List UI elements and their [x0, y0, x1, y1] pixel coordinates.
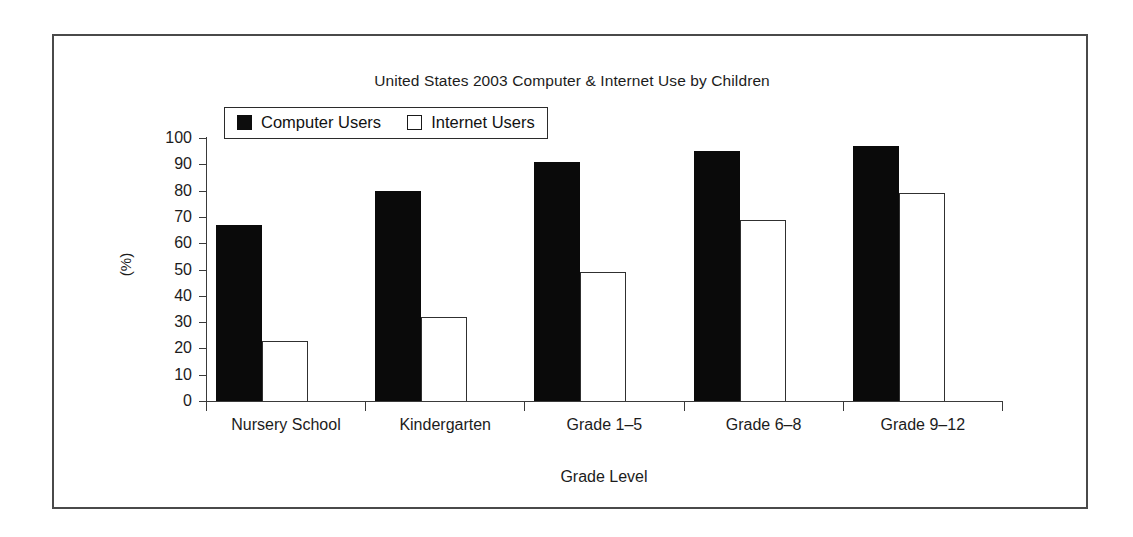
legend-item-computer-users: Computer Users — [237, 113, 381, 132]
x-tick-3 — [684, 401, 685, 411]
bar-computer-users[interactable] — [534, 162, 580, 401]
bar-pair — [694, 138, 786, 401]
chart-title: United States 2003 Computer & Internet U… — [54, 72, 1090, 90]
bar-computer-users[interactable] — [694, 151, 740, 401]
y-tick-label-100: 100 — [165, 129, 192, 147]
bar-internet-users[interactable] — [421, 317, 467, 401]
x-axis-title: Grade Level — [206, 468, 1002, 486]
y-tick-100: 100 — [199, 138, 206, 139]
x-tick-0 — [206, 401, 207, 411]
legend-swatch-hollow-icon — [407, 115, 422, 130]
bar-computer-users[interactable] — [853, 146, 899, 401]
y-tick-label-70: 70 — [174, 208, 192, 226]
y-tick-50: 50 — [199, 270, 206, 271]
y-tick-20: 20 — [199, 348, 206, 349]
bar-computer-users[interactable] — [216, 225, 262, 401]
x-tick-2 — [524, 401, 525, 411]
y-tick-label-30: 30 — [174, 313, 192, 331]
bar-pair — [853, 138, 945, 401]
bar-groups: Nursery SchoolKindergartenGrade 1–5Grade… — [206, 138, 1002, 401]
bar-computer-users[interactable] — [375, 191, 421, 401]
y-tick-60: 60 — [199, 243, 206, 244]
chart-page: United States 2003 Computer & Internet U… — [0, 0, 1133, 537]
y-tick-label-40: 40 — [174, 287, 192, 305]
x-tick-1 — [365, 401, 366, 411]
bar-pair — [534, 138, 626, 401]
y-tick-80: 80 — [199, 191, 206, 192]
bar-internet-users[interactable] — [580, 272, 626, 401]
y-tick-40: 40 — [199, 296, 206, 297]
x-tick-4 — [843, 401, 844, 411]
legend-swatch-filled-icon — [237, 115, 252, 130]
y-tick-30: 30 — [199, 322, 206, 323]
bar-group: Kindergarten — [365, 138, 524, 401]
y-axis-title: (%) — [117, 253, 134, 276]
bar-group: Grade 9–12 — [843, 138, 1002, 401]
bar-group: Grade 1–5 — [524, 138, 683, 401]
y-tick-70: 70 — [199, 217, 206, 218]
y-tick-90: 90 — [199, 164, 206, 165]
y-tick-label-20: 20 — [174, 339, 192, 357]
x-tick-5 — [1002, 401, 1003, 411]
legend-label-computer-users: Computer Users — [261, 113, 381, 132]
bar-internet-users[interactable] — [740, 220, 786, 401]
figure-frame: United States 2003 Computer & Internet U… — [52, 34, 1088, 509]
bar-pair — [375, 138, 467, 401]
bar-pair — [216, 138, 308, 401]
y-tick-label-50: 50 — [174, 261, 192, 279]
bar-internet-users[interactable] — [262, 341, 308, 401]
bar-group: Nursery School — [206, 138, 365, 401]
y-tick-0: 0 — [199, 401, 206, 402]
legend-item-internet-users: Internet Users — [407, 113, 535, 132]
plot-area: (%) 1009080706050403020100 Nursery Schoo… — [206, 138, 1002, 401]
bar-internet-users[interactable] — [899, 193, 945, 401]
y-tick-label-0: 0 — [183, 392, 192, 410]
x-axis-line — [206, 401, 1002, 402]
y-tick-label-90: 90 — [174, 155, 192, 173]
y-tick-10: 10 — [199, 375, 206, 376]
y-tick-label-80: 80 — [174, 182, 192, 200]
y-tick-label-60: 60 — [174, 234, 192, 252]
bar-group: Grade 6–8 — [684, 138, 843, 401]
chart-legend: Computer Users Internet Users — [224, 107, 548, 139]
legend-label-internet-users: Internet Users — [431, 113, 535, 132]
y-tick-label-10: 10 — [174, 366, 192, 384]
category-label: Grade 9–12 — [827, 416, 1019, 434]
